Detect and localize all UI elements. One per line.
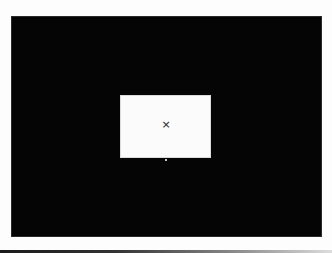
clipped-header-text bbox=[6, 0, 326, 4]
close-icon[interactable]: × bbox=[160, 118, 172, 132]
modal-dialog: × bbox=[120, 95, 211, 158]
loading-indicator-dot bbox=[165, 159, 167, 161]
